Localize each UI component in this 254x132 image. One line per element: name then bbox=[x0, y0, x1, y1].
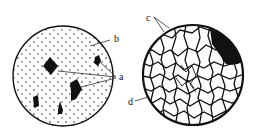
label-c: c bbox=[146, 12, 151, 23]
left-circle bbox=[13, 26, 113, 126]
right-micrograph: c d bbox=[128, 12, 244, 127]
micrograph-figure: b a c bbox=[0, 0, 254, 132]
label-a: a bbox=[119, 71, 124, 82]
label-b: b bbox=[114, 33, 119, 44]
left-micrograph: b a bbox=[13, 26, 124, 126]
label-d: d bbox=[128, 96, 133, 107]
particle bbox=[33, 95, 39, 108]
leader-line-d bbox=[135, 97, 148, 101]
leader-lines-c bbox=[154, 17, 169, 32]
